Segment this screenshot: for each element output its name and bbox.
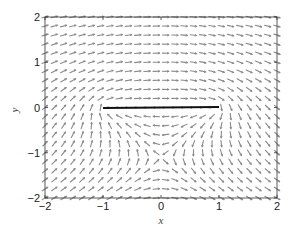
field-arrow: [201, 168, 205, 173]
field-arrow: [247, 87, 252, 91]
field-arrow: [247, 96, 252, 101]
field-arrow: [256, 114, 260, 119]
field-arrow: [89, 168, 93, 173]
field-arrow: [247, 169, 252, 174]
field-arrow: [265, 178, 270, 182]
field-arrow: [52, 132, 56, 137]
field-arrow: [127, 168, 131, 173]
field-arrow: [80, 96, 85, 101]
field-arrow: [61, 96, 66, 100]
field-arrow: [210, 178, 215, 182]
field-arrow: [144, 169, 149, 173]
field-arrow: [256, 150, 260, 155]
field-arrow: [247, 187, 252, 191]
field-arrow: [52, 96, 57, 100]
field-arrow: [99, 168, 103, 173]
field-arrow: [52, 141, 56, 146]
field-arrow: [70, 187, 75, 191]
field-arrow: [229, 168, 233, 173]
y-tick-label: 0: [34, 102, 40, 114]
field-arrow: [265, 105, 270, 110]
x-tick-label: 1: [216, 200, 222, 212]
field-arrow: [219, 187, 224, 191]
field-arrow: [52, 114, 56, 119]
x-tick-label: 0: [158, 200, 164, 212]
field-arrow: [89, 96, 94, 100]
field-arrow: [80, 178, 85, 182]
field-arrow: [219, 178, 224, 183]
field-arrow: [89, 187, 94, 191]
field-arrow: [117, 123, 121, 128]
field-arrow: [154, 160, 159, 164]
field-arrow: [265, 160, 270, 165]
field-arrow: [108, 114, 113, 119]
field-arrow: [52, 178, 57, 182]
field-arrow: [238, 168, 242, 173]
field-arrow: [52, 150, 56, 155]
field-arrow: [266, 132, 270, 137]
field-arrow: [237, 187, 242, 191]
field-arrow: [256, 169, 261, 174]
field-arrow: [266, 141, 270, 146]
field-arrow: [265, 88, 270, 92]
field-arrow: [61, 169, 66, 174]
y-axis-label: y: [8, 107, 20, 113]
field-arrow: [191, 124, 196, 128]
field-arrow: [108, 168, 112, 173]
field-arrow: [70, 87, 75, 91]
field-arrow: [172, 169, 177, 173]
field-arrow: [70, 178, 75, 182]
field-arrow: [71, 159, 75, 164]
field-arrow: [61, 88, 66, 92]
field-arrow: [200, 178, 205, 182]
field-arrow: [80, 159, 84, 164]
field-arrow: [192, 132, 196, 137]
field-arrow: [61, 159, 65, 164]
y-tick-label: 1: [34, 56, 40, 68]
field-arrow: [163, 151, 168, 155]
x-tick-label: −2: [39, 200, 52, 212]
field-arrow: [256, 105, 260, 110]
field-arrow: [89, 178, 94, 182]
field-arrow: [182, 133, 187, 137]
field-arrow: [154, 151, 159, 155]
field-arrow: [257, 141, 261, 146]
field-arrow: [228, 187, 233, 191]
y-tick-label: −2: [27, 192, 40, 204]
field-arrow: [191, 168, 195, 173]
x-axis-ticks: −2−1012: [39, 17, 280, 212]
field-arrow: [71, 96, 76, 101]
field-arrow: [117, 168, 121, 173]
field-arrow: [126, 124, 131, 128]
field-arrow: [172, 142, 177, 146]
field-arrow: [247, 178, 252, 182]
field-arrow: [247, 105, 251, 110]
field-arrow: [52, 88, 57, 92]
field-arrow: [52, 160, 57, 165]
field-arrow: [71, 105, 75, 110]
field-arrow: [266, 123, 270, 128]
field-arrow: [238, 159, 242, 164]
field-arrow: [191, 178, 196, 182]
x-tick-label: −1: [97, 200, 110, 212]
field-arrow: [61, 178, 66, 182]
field-arrow: [126, 178, 131, 182]
y-tick-label: −1: [27, 147, 40, 159]
field-arrow: [62, 114, 66, 119]
x-tick-label: 2: [274, 200, 280, 212]
field-arrow: [62, 141, 66, 146]
field-arrow: [107, 187, 112, 191]
field-arrow: [61, 105, 65, 110]
field-arrow: [52, 169, 57, 173]
field-arrow: [98, 187, 103, 191]
field-arrow: [80, 168, 84, 173]
field-arrow: [145, 142, 150, 146]
field-arrow: [237, 88, 242, 92]
field-arrow: [256, 96, 261, 100]
field-arrow: [256, 88, 261, 92]
field-arrow: [265, 169, 270, 173]
field-arrow: [80, 187, 85, 191]
field-arrow: [209, 187, 214, 191]
field-arrow: [265, 96, 270, 100]
field-arrow: [108, 178, 113, 182]
